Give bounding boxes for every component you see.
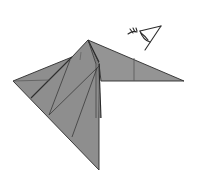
view-eye-icon	[128, 26, 161, 50]
right-wing	[88, 40, 184, 81]
main-body	[13, 40, 101, 170]
origami-diagram	[0, 0, 197, 184]
